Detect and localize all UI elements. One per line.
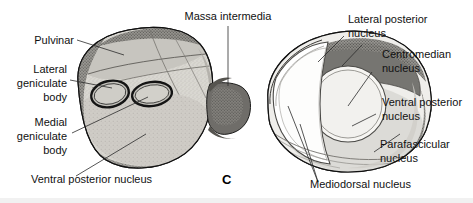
label-lateral-posterior-line2: nucleus	[348, 27, 386, 39]
label-centromedian-line1: Centromedian	[382, 48, 451, 60]
anatomical-figure: Pulvinar Lateral geniculate body Medial …	[0, 0, 473, 203]
label-ventral-posterior-right-line1: Ventral posterior	[382, 96, 462, 108]
label-massa-intermedia: Massa intermedia	[185, 10, 273, 22]
label-lateral-posterior-line1: Lateral posterior	[348, 13, 428, 25]
label-medial-geniculate-line3: body	[43, 144, 67, 156]
label-lateral-geniculate-line1: Lateral	[33, 63, 67, 75]
footer-band	[0, 198, 473, 203]
label-medial-geniculate-line2: geniculate	[17, 130, 67, 142]
label-lateral-geniculate-line3: body	[43, 91, 67, 103]
label-centromedian-line2: nucleus	[382, 62, 420, 74]
panel-letter-c: C	[222, 172, 232, 187]
label-ventral-posterior-nucleus-left: Ventral posterior nucleus	[31, 173, 153, 185]
label-medial-geniculate-line1: Medial	[35, 116, 67, 128]
label-ventral-posterior-right-line2: nucleus	[382, 110, 420, 122]
label-parafascicular-line1: Parafascicular	[380, 138, 450, 150]
label-parafascicular-line2: nucleus	[380, 152, 418, 164]
label-lateral-geniculate-line2: geniculate	[17, 77, 67, 89]
label-mediodorsal-nucleus: Mediodorsal nucleus	[310, 178, 411, 190]
label-pulvinar: Pulvinar	[34, 34, 74, 46]
